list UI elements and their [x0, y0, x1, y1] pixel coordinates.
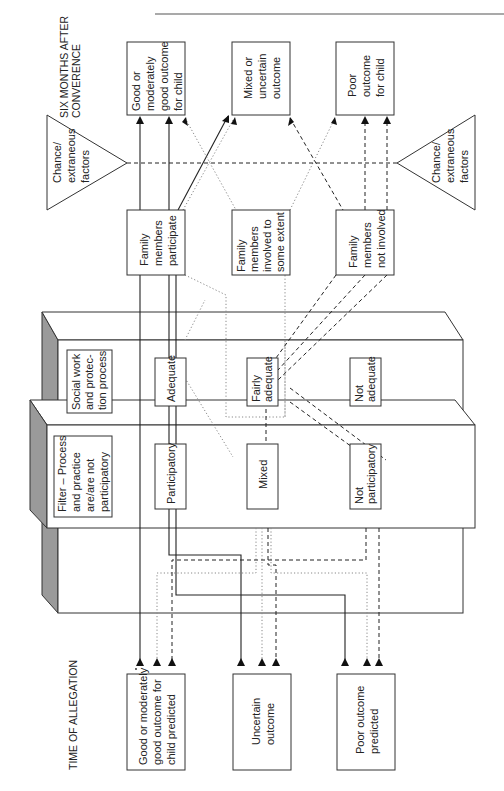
outcome-box-good: Good or moderately good outcome for chil… [127, 38, 185, 115]
filter-title-box: Filter – Process and practice are/are no… [54, 433, 112, 517]
svg-text:Mixed or uncertain: Mixed or uncertain outcome [242, 51, 282, 99]
chance-triangle-left: Chance/ extraneous factors [47, 115, 127, 210]
filter-participatory: Participatory [155, 442, 186, 509]
header-six-months: SIX MONTHS AFTER CONVERENCE [58, 13, 82, 118]
social-work-title-box: Social work and protec- tion process [67, 350, 112, 413]
family-box-not-involved: Family members not involved [336, 209, 394, 275]
prediction-box-good: Good or moderately good outcome for chil… [127, 665, 185, 770]
prediction-box-poor: Poor outcome predicted [337, 674, 395, 770]
svg-text:Mixed: Mixed [257, 460, 269, 489]
svg-text:Participatory: Participatory [165, 442, 177, 504]
filter-mixed: Mixed [247, 444, 278, 509]
prediction-box-uncertain: Uncertain outcome [233, 674, 291, 770]
social-work-not-adequate: Not adequate [350, 356, 381, 406]
family-box-participate: Family members participate [127, 210, 185, 275]
chance-triangle-right: Chance/ extraneous factors [397, 115, 475, 210]
family-box-some-extent: Family members involved to some extent [232, 210, 290, 275]
svg-text:Social work and protec-: Social work and protec- tion process [70, 350, 108, 410]
header-time-of-allegation: TIME OF ALLEGATION [67, 660, 79, 770]
svg-text:Adequate: Adequate [165, 355, 177, 402]
outcome-flow-diagram: Good or moderately good outcome for chil… [0, 0, 504, 791]
outcome-box-poor: Poor outcome for child [336, 42, 394, 115]
stray-mark [135, 668, 137, 670]
filter-not-participatory: Not participatory [350, 444, 381, 509]
outcome-box-mixed: Mixed or uncertain outcome [232, 42, 290, 115]
social-work-fairly-adequate: Fairly adequate [247, 356, 278, 406]
social-work-adequate: Adequate [155, 355, 186, 406]
